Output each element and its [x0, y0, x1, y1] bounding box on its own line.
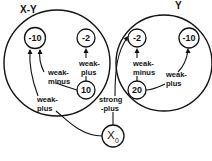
- group-label-x-y: X-Y: [20, 4, 37, 15]
- node-y-minus-2: -2: [128, 29, 146, 47]
- node-label: -10: [182, 33, 195, 43]
- node-label: 10: [81, 85, 91, 95]
- node-label: 20: [132, 85, 142, 95]
- edge-line: [146, 84, 165, 90]
- node-y-20: 20: [128, 81, 146, 99]
- arrowhead-icon: [38, 49, 43, 54]
- node-y-minus-10: -10: [179, 28, 199, 48]
- node-x0: X 0: [102, 125, 124, 147]
- node-x-y-minus-2: -2: [77, 29, 95, 47]
- edge-label: plus: [37, 104, 52, 113]
- node-x-y-minus-10: -10: [25, 28, 46, 49]
- group-label-y: Y: [175, 0, 182, 11]
- edge-line: [115, 38, 127, 96]
- edge-label: minus: [48, 77, 70, 86]
- edge-label: plus: [81, 68, 96, 77]
- edge-label: weak-: [165, 70, 187, 79]
- edge-label: minus: [133, 68, 155, 77]
- edge-label: -plus: [101, 104, 119, 113]
- node-x-y-10: 10: [77, 81, 95, 99]
- diagram: X-Y Y weak- minus weak- plus weak- plus …: [0, 0, 212, 161]
- node-label: -2: [133, 33, 141, 43]
- edge-label: strong: [99, 95, 123, 104]
- edge-label: weak-: [132, 59, 154, 68]
- edge-line: [30, 50, 38, 96]
- edge-label: plus: [166, 79, 181, 88]
- edge-label: weak-: [36, 95, 58, 104]
- node-label: -10: [28, 33, 41, 43]
- node-subscript: 0: [115, 137, 119, 144]
- edge-label: weak-: [78, 59, 100, 68]
- arrowhead-icon: [28, 49, 33, 54]
- arrowhead-icon: [186, 48, 191, 53]
- node-label: -2: [82, 33, 90, 43]
- arrowhead-icon: [84, 48, 89, 53]
- edge-line: [56, 111, 102, 136]
- edge-label: weak-: [47, 68, 69, 77]
- arrowhead-icon: [135, 48, 140, 53]
- edge-line: [178, 50, 188, 72]
